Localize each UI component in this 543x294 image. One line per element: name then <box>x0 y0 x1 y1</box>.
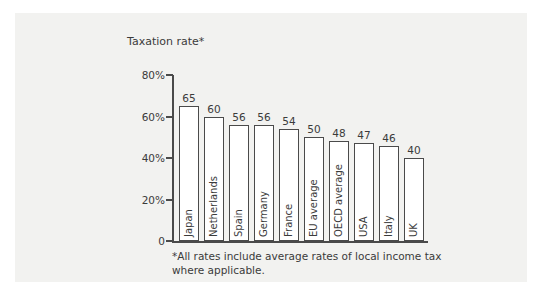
y-axis-label: 40% <box>125 152 165 164</box>
chart-footnote: *All rates include average rates of loca… <box>172 249 472 277</box>
bar-category-label: Germany <box>259 191 269 237</box>
y-axis-tick <box>166 116 173 118</box>
bar-category-label: Spain <box>234 209 244 237</box>
bar-value-label: 46 <box>382 132 395 144</box>
x-axis-line <box>172 241 428 243</box>
bar-value-label: 56 <box>232 111 245 123</box>
bar-value-label: 54 <box>282 115 295 127</box>
y-axis-label: 0 <box>125 235 165 247</box>
y-axis-label: 60% <box>125 111 165 123</box>
bar[interactable]: 54France <box>279 129 299 241</box>
bar[interactable]: 40UK <box>404 158 424 241</box>
bar-value-label: 65 <box>182 92 195 104</box>
bar[interactable]: 50EU average <box>304 137 324 241</box>
bar-value-label: 48 <box>332 127 345 139</box>
bar[interactable]: 65Japan <box>179 106 199 241</box>
bar-value-label: 56 <box>257 111 270 123</box>
bar-value-label: 60 <box>207 103 220 115</box>
y-axis-label: 20% <box>125 194 165 206</box>
bar[interactable]: 47USA <box>354 143 374 241</box>
bar-category-label: France <box>284 204 294 237</box>
bar-category-label: USA <box>359 216 369 237</box>
chart-panel: Taxation rate* 020%40%60%80% 65Japan60Ne… <box>15 13 527 282</box>
bar-value-label: 50 <box>307 123 320 135</box>
y-axis-tick <box>166 157 173 159</box>
bar[interactable]: 56Spain <box>229 125 249 241</box>
bar-category-label: UK <box>409 223 419 237</box>
bar-category-label: Japan <box>184 209 194 237</box>
bar-value-label: 47 <box>357 129 370 141</box>
y-axis-tick <box>166 240 173 242</box>
bar-category-label: Italy <box>384 215 394 237</box>
bar[interactable]: 46Italy <box>379 146 399 241</box>
y-axis-tick <box>166 199 173 201</box>
bar-category-label: OECD average <box>334 164 344 237</box>
bar-value-label: 40 <box>407 144 420 156</box>
chart-title: Taxation rate* <box>127 35 204 48</box>
bar[interactable]: 56Germany <box>254 125 274 241</box>
bar-category-label: Netherlands <box>209 176 219 237</box>
bar[interactable]: 60Netherlands <box>204 117 224 242</box>
y-axis-tick <box>166 74 173 76</box>
bar[interactable]: 48OECD average <box>329 141 349 241</box>
y-axis-label: 80% <box>125 69 165 81</box>
bar-category-label: EU average <box>309 179 319 237</box>
plot-area: 020%40%60%80% 65Japan60Netherlands56Spai… <box>157 60 427 243</box>
